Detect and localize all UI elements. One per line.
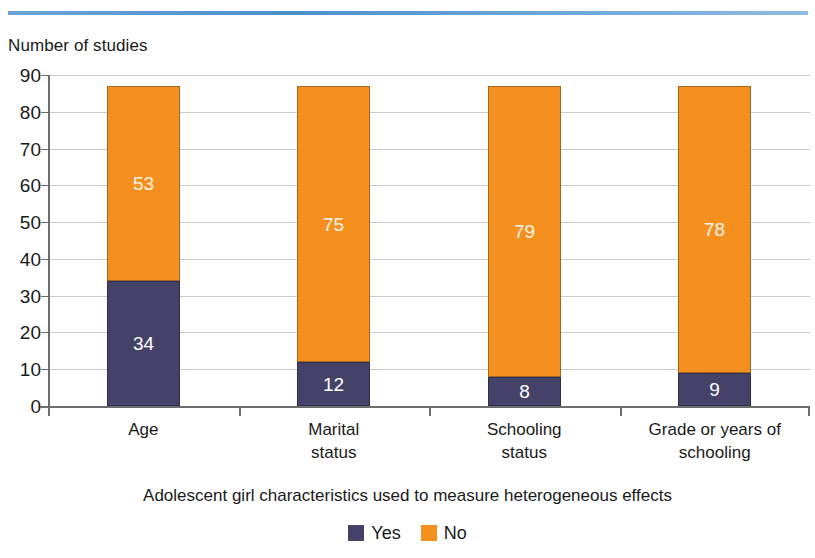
y-axis-tick-label: 70 [1, 140, 41, 159]
y-axis-tick-label: 10 [1, 360, 41, 379]
x-axis-category-label-line: Grade or years of [620, 419, 811, 442]
bar-group[interactable]: 5334 [107, 86, 180, 406]
y-axis-tick [41, 185, 48, 186]
x-axis-tick [239, 406, 241, 416]
legend-swatch-icon [348, 525, 364, 541]
y-axis-tick [41, 75, 48, 76]
y-axis-tick [41, 222, 48, 223]
x-axis-category-label-line: Schooling [429, 419, 620, 442]
y-axis-tick-label: 50 [1, 213, 41, 232]
x-axis-category-label: Grade or years ofschooling [620, 419, 811, 464]
bar-value-label: 9 [709, 380, 720, 399]
y-axis-tick-label: 80 [1, 103, 41, 122]
bar-segment-no[interactable]: 78 [678, 86, 751, 373]
bar-value-label: 8 [519, 382, 530, 401]
y-axis-tick-label: 90 [1, 66, 41, 85]
x-axis-category-label-line: status [239, 442, 430, 465]
y-axis-tick [41, 259, 48, 260]
x-axis-category-label: Schoolingstatus [429, 419, 620, 464]
y-axis-tick [41, 112, 48, 113]
bar-segment-no[interactable]: 79 [488, 86, 561, 377]
bar-segment-no[interactable]: 75 [297, 86, 370, 362]
bar-value-label: 79 [514, 222, 535, 241]
x-axis-ticks [48, 406, 810, 417]
bar-group[interactable]: 798 [488, 86, 561, 406]
bar-group[interactable]: 789 [678, 86, 751, 406]
y-axis-title: Number of studies [8, 36, 148, 56]
x-axis-category-label-line: Marital [239, 419, 430, 442]
y-axis-tick [41, 296, 48, 297]
x-axis-tick [808, 406, 810, 416]
y-axis-tick-label: 40 [1, 250, 41, 269]
x-axis-category-labels: AgeMaritalstatusSchoolingstatusGrade or … [48, 419, 810, 479]
chart-plot-area: 53347512798789 [48, 75, 810, 406]
y-axis-tick-label: 0 [1, 397, 41, 416]
bar-value-label: 78 [704, 220, 725, 239]
x-axis-category-label: Maritalstatus [239, 419, 430, 464]
bar-value-label: 75 [323, 215, 344, 234]
y-axis-tick [41, 369, 48, 370]
x-axis-category-label-line: Age [48, 419, 239, 442]
legend-swatch-icon [421, 525, 437, 541]
x-axis-tick [620, 406, 622, 416]
x-axis-title: Adolescent girl characteristics used to … [0, 486, 815, 506]
x-axis-category-label-line: schooling [620, 442, 811, 465]
bar-segment-no[interactable]: 53 [107, 86, 180, 281]
chart-legend: YesNo [0, 524, 815, 542]
bar-value-label: 34 [133, 334, 154, 353]
x-axis-tick [429, 406, 431, 416]
bar-group[interactable]: 7512 [297, 86, 370, 406]
legend-label: No [444, 524, 467, 542]
y-axis-tick-label: 30 [1, 287, 41, 306]
x-axis-tick [48, 406, 50, 416]
y-axis-tick-label: 20 [1, 323, 41, 342]
legend-item[interactable]: Yes [348, 524, 400, 542]
y-axis-tick [41, 406, 48, 407]
gridline [48, 75, 810, 76]
x-axis-category-label-line: status [429, 442, 620, 465]
bar-segment-yes[interactable]: 8 [488, 377, 561, 406]
bar-segment-yes[interactable]: 9 [678, 373, 751, 406]
top-divider-rule [8, 11, 808, 15]
x-axis-category-label: Age [48, 419, 239, 442]
legend-label: Yes [371, 524, 400, 542]
y-axis-tick [41, 149, 48, 150]
bar-segment-yes[interactable]: 12 [297, 362, 370, 406]
legend-item[interactable]: No [421, 524, 467, 542]
bar-value-label: 53 [133, 174, 154, 193]
y-axis-line [48, 75, 50, 406]
y-axis-tick-label: 60 [1, 176, 41, 195]
bar-segment-yes[interactable]: 34 [107, 281, 180, 406]
y-axis-tick [41, 332, 48, 333]
y-axis-tick-labels: 9080706050403020100 [0, 75, 41, 406]
bar-value-label: 12 [323, 375, 344, 394]
